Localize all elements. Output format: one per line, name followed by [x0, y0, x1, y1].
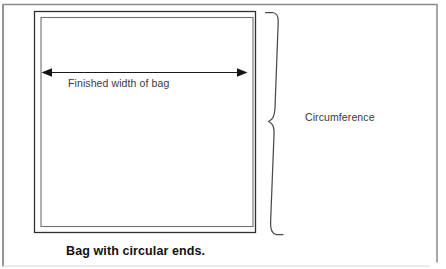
dimension-arrow-head-right [237, 68, 248, 77]
figure-caption: Bag with circular ends. [66, 245, 205, 258]
circumference-label: Circumference [305, 112, 375, 123]
finished-width-label: Finished width of bag [68, 78, 169, 89]
bag-inner-rectangle [41, 18, 253, 227]
width-dimension-arrow [42, 68, 248, 77]
page-border-frame [3, 5, 438, 267]
bag-inner-rect-path [41, 18, 253, 227]
bag-outer-rect-path [35, 12, 256, 233]
dimension-arrow-head-left [42, 68, 53, 77]
bag-outer-rectangle [35, 12, 256, 233]
figure-canvas: Finished width of bag Circumference Bag … [0, 0, 446, 269]
circumference-brace [266, 13, 284, 235]
figure-drawing [0, 0, 446, 269]
brace-path [266, 13, 284, 235]
